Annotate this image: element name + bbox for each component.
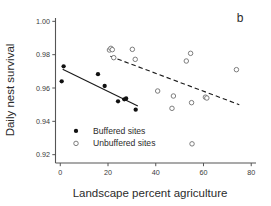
legend-marker-filled-circle: [74, 129, 78, 133]
data-point-unbuffered: [111, 55, 116, 60]
regression-lines: [63, 56, 240, 106]
data-point-buffered: [60, 79, 64, 83]
data-points: [60, 46, 239, 146]
y-tick-label: 0.92: [36, 150, 50, 159]
legend-marker-open-circle: [74, 141, 79, 146]
data-point-buffered: [96, 72, 100, 76]
data-point-unbuffered: [133, 57, 138, 62]
y-tick-label: 0.96: [36, 84, 50, 93]
data-point-unbuffered: [130, 47, 135, 52]
data-point-buffered: [124, 96, 128, 100]
x-tick-label: 80: [247, 168, 255, 177]
figure-panel-b: 0.920.940.960.981.00020406080 Buffered s…: [0, 0, 271, 206]
scatter-plot: 0.920.940.960.981.00020406080 Buffered s…: [0, 0, 271, 206]
data-point-unbuffered: [188, 51, 193, 56]
data-point-buffered: [116, 99, 120, 103]
data-point-unbuffered: [189, 100, 194, 105]
panel-label: b: [237, 11, 244, 25]
y-axis-title: Daily nest survival: [4, 44, 16, 137]
data-point-buffered: [103, 84, 107, 88]
data-point-unbuffered: [171, 94, 176, 99]
data-point-buffered: [134, 108, 138, 112]
legend-label: Unbuffered sites: [93, 138, 155, 148]
x-tick-label: 40: [152, 168, 160, 177]
legend-label: Buffered sites: [93, 126, 145, 136]
data-point-unbuffered: [155, 89, 160, 94]
plot-legend: Buffered sitesUnbuffered sites: [74, 126, 156, 149]
data-point-unbuffered: [190, 142, 195, 147]
y-tick-label: 0.94: [36, 117, 50, 126]
axis-tick-labels: 0.920.940.960.981.00020406080: [36, 17, 255, 177]
x-axis-title: Landscape percent agriculture: [73, 187, 228, 199]
data-point-unbuffered: [205, 96, 210, 101]
data-point-unbuffered: [184, 59, 189, 64]
y-tick-label: 0.98: [36, 50, 50, 59]
x-tick-label: 60: [199, 168, 207, 177]
data-point-buffered: [61, 64, 65, 68]
x-tick-label: 20: [104, 168, 112, 177]
data-point-unbuffered: [170, 106, 175, 111]
y-tick-label: 1.00: [36, 17, 50, 26]
x-tick-label: 0: [58, 168, 62, 177]
data-point-unbuffered: [234, 67, 239, 72]
data-point-unbuffered: [110, 47, 115, 52]
